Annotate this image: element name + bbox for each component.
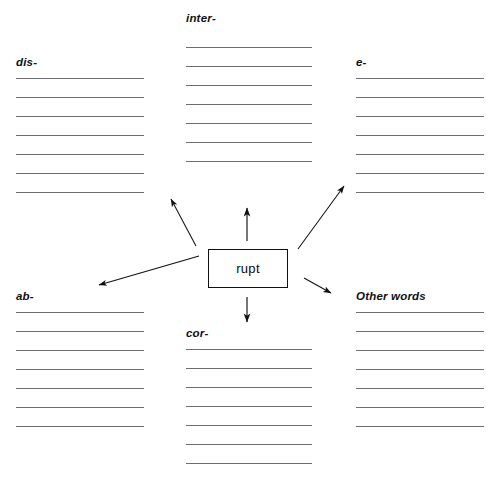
arrow-to-other-words-icon [304, 278, 331, 293]
answer-line[interactable] [16, 407, 144, 408]
answer-line[interactable] [356, 388, 484, 389]
answer-line[interactable] [16, 350, 144, 351]
section-label-ab: ab- [16, 290, 144, 303]
answer-line[interactable] [16, 388, 144, 389]
answer-line[interactable] [356, 426, 484, 427]
answer-line[interactable] [16, 135, 144, 136]
section-label-dis: dis- [16, 56, 144, 69]
answer-line[interactable] [356, 173, 484, 174]
answer-line[interactable] [356, 331, 484, 332]
answer-line[interactable] [186, 463, 312, 464]
answer-line[interactable] [356, 116, 484, 117]
answer-line[interactable] [356, 154, 484, 155]
answer-line[interactable] [16, 331, 144, 332]
section-label-cor: cor- [186, 327, 312, 340]
answer-line[interactable] [186, 104, 312, 105]
answer-line[interactable] [186, 406, 312, 407]
section-cor: cor- [186, 327, 312, 464]
answer-line[interactable] [16, 116, 144, 117]
answer-lines-dis [16, 78, 144, 193]
section-inter: inter- [186, 12, 312, 162]
section-label-inter: inter- [186, 12, 312, 25]
answer-line[interactable] [186, 368, 312, 369]
answer-line[interactable] [356, 407, 484, 408]
answer-line[interactable] [186, 349, 312, 350]
answer-lines-ab [16, 312, 144, 427]
section-ab: ab- [16, 290, 144, 427]
answer-line[interactable] [16, 97, 144, 98]
root-word-label: rupt [209, 250, 287, 287]
answer-line[interactable] [16, 192, 144, 193]
arrow-to-dis-icon [171, 199, 196, 246]
answer-line[interactable] [16, 154, 144, 155]
answer-line[interactable] [356, 192, 484, 193]
arrow-to-ab-icon [99, 256, 199, 285]
answer-line[interactable] [356, 369, 484, 370]
answer-line[interactable] [186, 425, 312, 426]
answer-lines-e [356, 78, 484, 193]
section-label-e: e- [356, 56, 484, 69]
section-label-other-words: Other words [356, 290, 484, 303]
answer-lines-other-words [356, 312, 484, 427]
answer-line[interactable] [356, 97, 484, 98]
arrow-to-e-icon [298, 186, 344, 249]
root-word-box: rupt [208, 249, 288, 288]
answer-line[interactable] [186, 123, 312, 124]
answer-line[interactable] [16, 426, 144, 427]
answer-line[interactable] [186, 66, 312, 67]
answer-line[interactable] [16, 369, 144, 370]
answer-line[interactable] [356, 312, 484, 313]
answer-lines-inter [186, 47, 312, 162]
section-e: e- [356, 56, 484, 193]
answer-lines-cor [186, 349, 312, 464]
answer-line[interactable] [16, 78, 144, 79]
section-other-words: Other words [356, 290, 484, 427]
answer-line[interactable] [186, 47, 312, 48]
word-web-worksheet: dis- inter- e- [0, 0, 498, 500]
answer-line[interactable] [186, 387, 312, 388]
answer-line[interactable] [356, 78, 484, 79]
section-dis: dis- [16, 56, 144, 193]
answer-line[interactable] [186, 142, 312, 143]
answer-line[interactable] [16, 173, 144, 174]
answer-line[interactable] [356, 135, 484, 136]
answer-line[interactable] [186, 85, 312, 86]
answer-line[interactable] [356, 350, 484, 351]
answer-line[interactable] [16, 312, 144, 313]
answer-line[interactable] [186, 161, 312, 162]
answer-line[interactable] [186, 444, 312, 445]
